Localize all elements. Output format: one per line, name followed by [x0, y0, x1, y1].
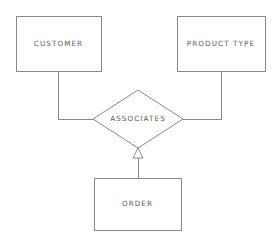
- entity-order-label: ORDER: [122, 199, 153, 208]
- relationship-associates-label: ASSOCIATES: [110, 114, 166, 123]
- entity-product-type[interactable]: PRODUCT TYPE: [177, 16, 265, 71]
- er-diagram: CUSTOMER PRODUCT TYPE ORDER ASSOCIATES: [0, 0, 278, 239]
- entity-customer-label: CUSTOMER: [34, 39, 83, 48]
- entity-customer[interactable]: CUSTOMER: [16, 16, 101, 71]
- er-diagram-canvas: CUSTOMER PRODUCT TYPE ORDER ASSOCIATES: [0, 0, 278, 239]
- relationship-associates[interactable]: ASSOCIATES: [93, 90, 183, 148]
- connector-customer-associates: [58, 71, 93, 119]
- entity-product-type-label: PRODUCT TYPE: [187, 39, 255, 48]
- entity-order[interactable]: ORDER: [94, 178, 181, 230]
- connector-product-type-associates: [183, 71, 221, 119]
- hollow-triangle-arrow-icon: [133, 148, 143, 158]
